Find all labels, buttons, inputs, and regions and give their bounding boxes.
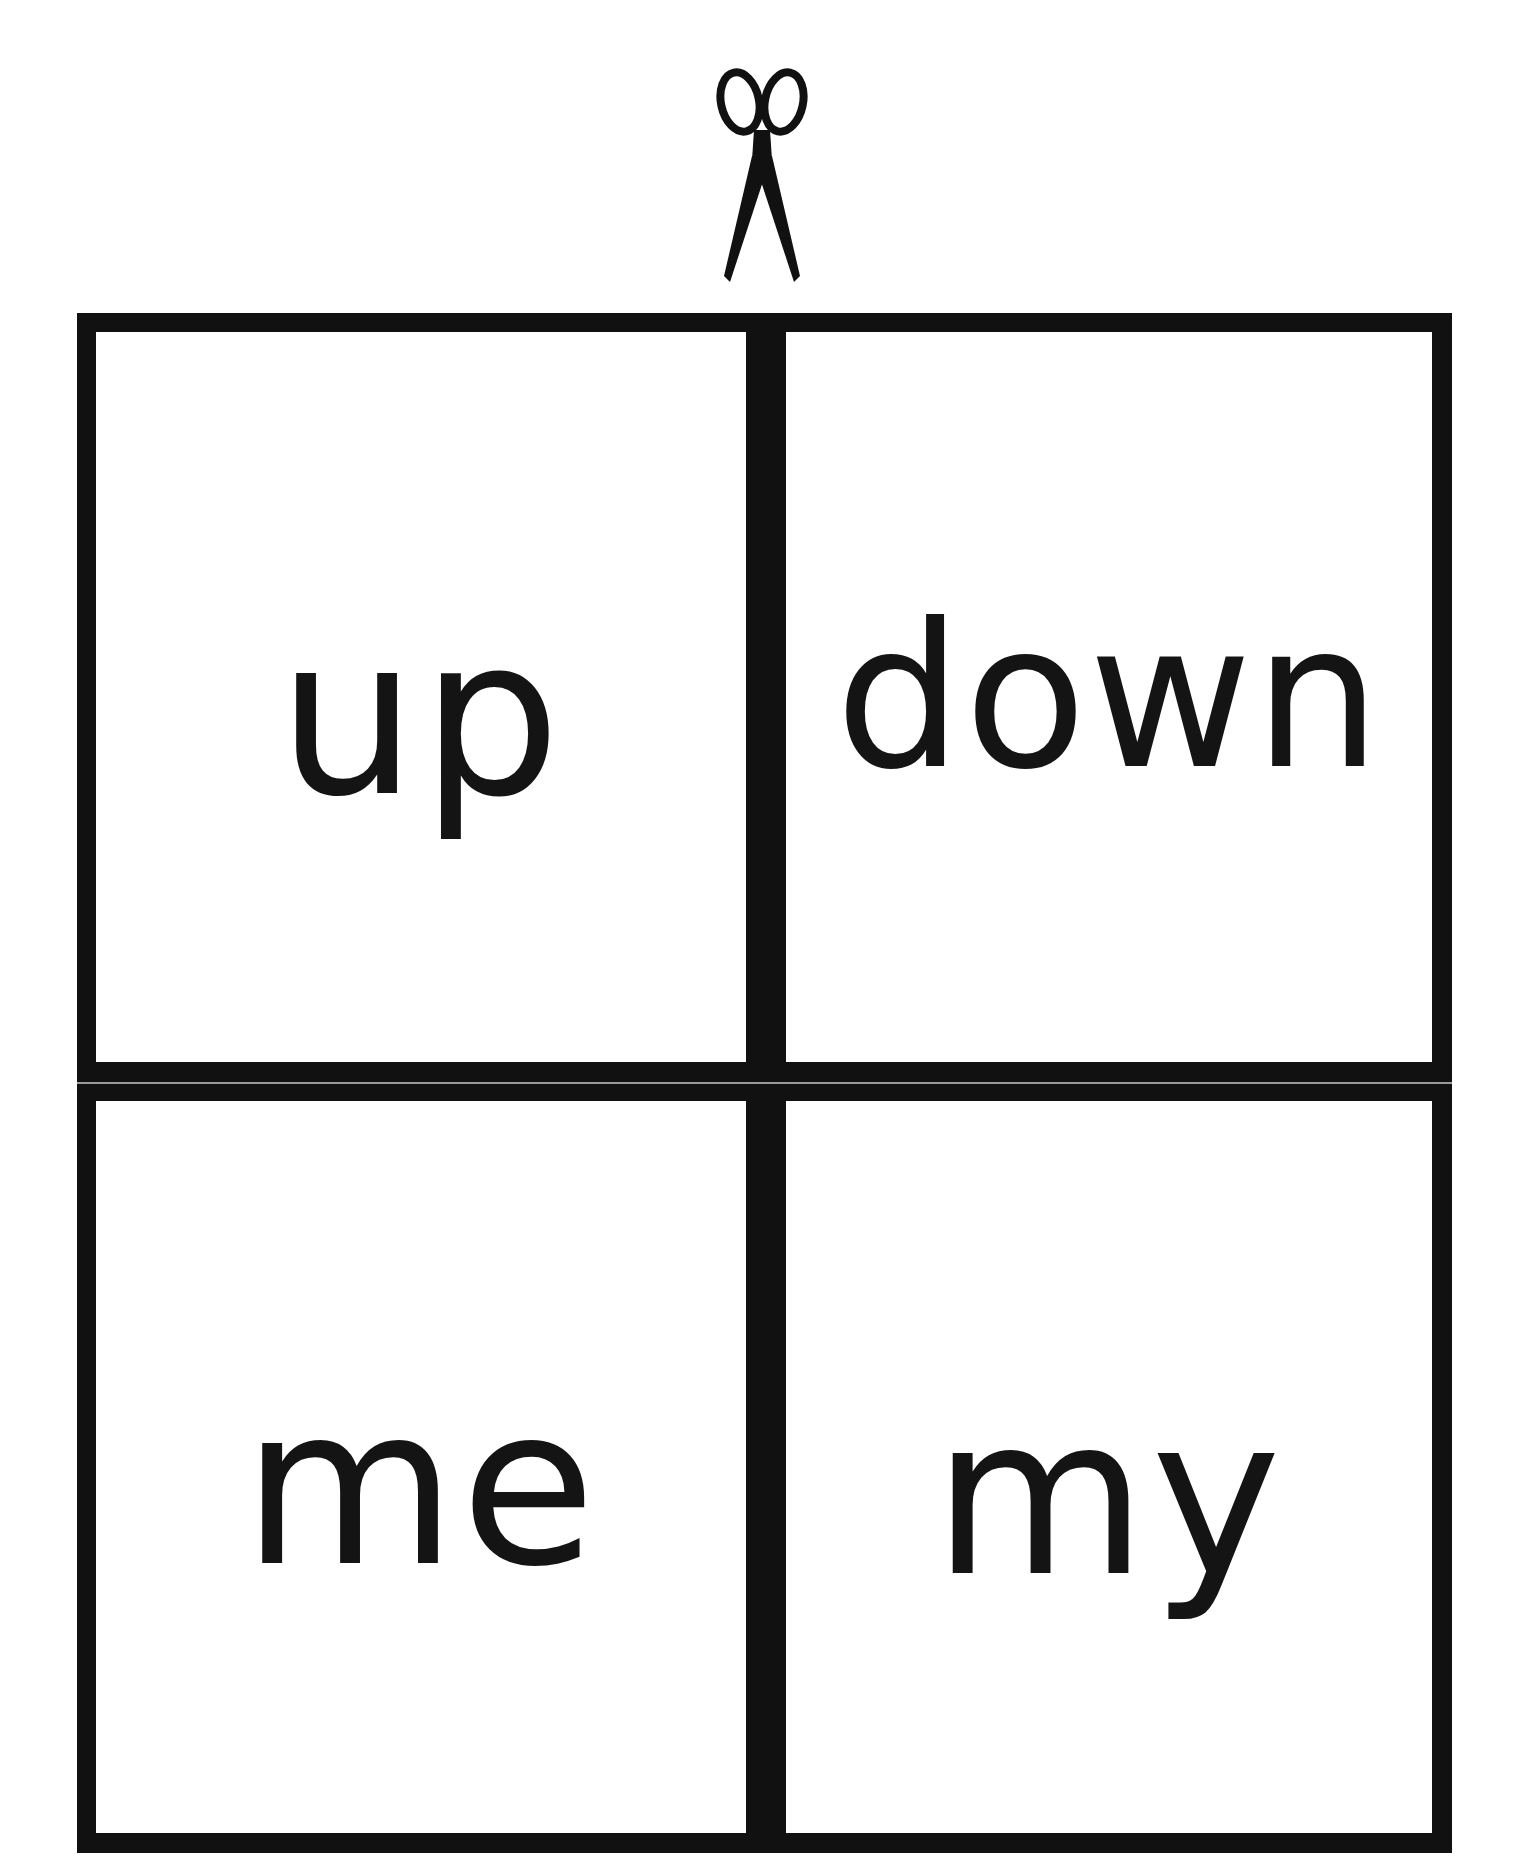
card-word: me	[242, 1377, 600, 1597]
scissors-icon	[712, 64, 812, 286]
card-word: down	[835, 597, 1383, 797]
card-word: up	[277, 607, 564, 827]
cut-guide-line	[77, 1082, 1452, 1084]
flashcard-sheet: up down me my	[0, 0, 1520, 1871]
card-grid: up down me my	[77, 313, 1452, 1853]
card-up: up	[96, 332, 746, 1062]
card-down: down	[786, 332, 1432, 1062]
card-my: my	[786, 1101, 1432, 1833]
card-me: me	[96, 1101, 746, 1833]
card-word: my	[933, 1387, 1286, 1607]
